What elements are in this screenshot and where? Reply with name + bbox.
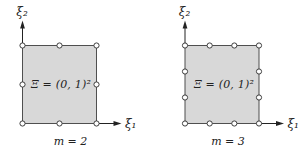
y-axis-arrowhead — [183, 21, 188, 29]
boundary-point — [182, 69, 187, 74]
boundary-point — [256, 43, 261, 48]
figure-canvas: ξ₂ ξ₁ Ξ = (0, 1)² m = 2 ξ₂ ξ₁ Ξ = (0, 1)… — [0, 0, 303, 158]
boundary-point — [57, 43, 62, 48]
y-axis-label: ξ₂ — [179, 5, 191, 19]
diagram-m3: ξ₂ ξ₁ Ξ = (0, 1)² m = 3 — [179, 5, 299, 148]
x-axis-arrowhead — [114, 121, 122, 126]
diagram-m2: ξ₂ ξ₁ Ξ = (0, 1)² m = 2 — [16, 5, 136, 148]
boundary-point — [182, 43, 187, 48]
x-axis-label: ξ₁ — [288, 117, 299, 131]
boundary-point — [182, 95, 187, 100]
boundary-point — [232, 121, 237, 126]
x-axis-arrowhead — [276, 121, 284, 126]
y-axis-label: ξ₂ — [16, 5, 28, 19]
boundary-point — [94, 121, 99, 126]
boundary-point — [94, 82, 99, 87]
boundary-point — [20, 121, 25, 126]
region-label: Ξ = (0, 1)² — [193, 78, 254, 91]
boundary-point — [57, 121, 62, 126]
boundary-point — [207, 121, 212, 126]
boundary-point — [20, 82, 25, 87]
region-label: Ξ = (0, 1)² — [30, 78, 91, 91]
x-axis-label: ξ₁ — [125, 117, 136, 131]
boundary-point — [182, 121, 187, 126]
m-label: m = 2 — [54, 135, 88, 148]
m-label: m = 3 — [211, 135, 245, 148]
boundary-point — [256, 121, 261, 126]
boundary-point — [256, 69, 261, 74]
boundary-point — [94, 43, 99, 48]
boundary-point — [207, 43, 212, 48]
boundary-point — [256, 95, 261, 100]
parameter-domain-figure: ξ₂ ξ₁ Ξ = (0, 1)² m = 2 ξ₂ ξ₁ Ξ = (0, 1)… — [0, 0, 303, 158]
boundary-point — [232, 43, 237, 48]
boundary-point — [20, 43, 25, 48]
y-axis-arrowhead — [20, 21, 25, 29]
